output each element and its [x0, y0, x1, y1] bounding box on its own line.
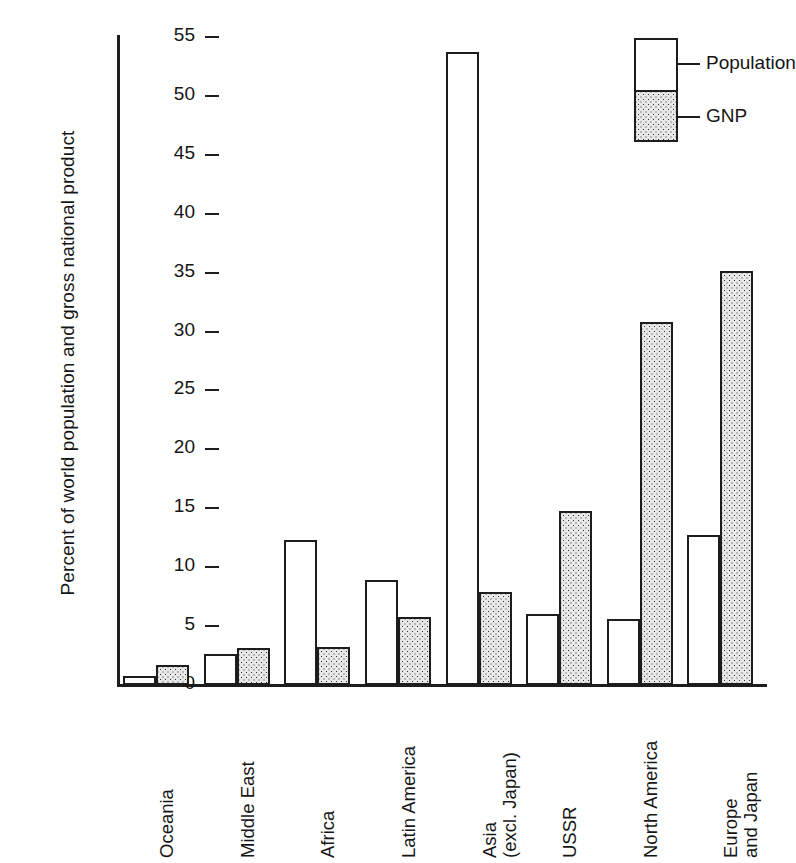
x-axis-label-line: Asia: [479, 822, 500, 858]
bar-population: [365, 580, 398, 685]
bar-gnp: [720, 271, 753, 685]
bar-population: [446, 52, 479, 685]
bar-gnp: [640, 322, 673, 685]
chart-legend: Population GNP: [634, 38, 784, 150]
legend-swatch-population: [636, 40, 676, 90]
bar-gnp: [398, 617, 431, 685]
bar-group: [201, 37, 282, 685]
bar-group: [443, 37, 524, 685]
bar-population: [526, 614, 559, 685]
bar-group: [362, 37, 443, 685]
bar-population: [284, 540, 317, 685]
x-axis-label-line: and Japan: [741, 772, 761, 858]
legend-label-gnp: GNP: [706, 105, 747, 127]
x-axis-label-line: Oceania: [156, 789, 177, 858]
bar-gnp: [559, 511, 592, 685]
x-axis-label: North America: [641, 741, 661, 858]
bar-group: [281, 37, 362, 685]
x-axis-labels: OceaniaMiddle EastAfricaLatin AmericaAsi…: [120, 690, 765, 863]
x-axis-label: USSR: [560, 807, 580, 858]
x-axis-label-line: Latin America: [398, 746, 419, 858]
bar-population: [687, 535, 720, 685]
x-axis-label-line: Africa: [317, 811, 338, 858]
legend-leader-gnp: [678, 116, 700, 118]
x-axis-label-line: USSR: [559, 807, 580, 858]
bar-gnp: [237, 648, 270, 685]
legend-label-population: Population: [706, 52, 796, 74]
bar-population: [204, 654, 237, 685]
bar-group: [523, 37, 604, 685]
x-axis-label: Latin America: [399, 746, 419, 858]
bar-population: [123, 676, 156, 685]
bar-population: [607, 619, 640, 685]
legend-leader-population: [678, 63, 700, 65]
bar-group: [120, 37, 201, 685]
bar-gnp: [479, 592, 512, 685]
x-axis-label: Europeand Japan: [721, 772, 761, 858]
x-axis-label-line: Middle East: [237, 761, 258, 858]
x-axis-label-line: Europe: [720, 798, 741, 858]
x-axis-label-line: North America: [640, 741, 661, 858]
x-axis-label: Asia(excl. Japan): [480, 752, 520, 858]
y-axis-title: Percent of world population and gross na…: [57, 43, 79, 683]
x-axis-label-line: (excl. Japan): [500, 752, 520, 858]
bar-gnp: [156, 665, 189, 685]
legend-swatch: [634, 38, 678, 142]
legend-swatch-gnp: [636, 90, 676, 140]
x-axis-label: Oceania: [157, 789, 177, 858]
x-axis-label: Middle East: [238, 761, 258, 858]
bar-gnp: [317, 647, 350, 685]
x-axis-label: Africa: [318, 811, 338, 858]
